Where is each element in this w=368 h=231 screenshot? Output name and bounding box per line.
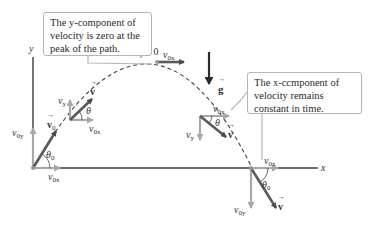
vy-label-falling: vy [186,130,194,142]
v0x-label-falling: v0x [213,104,224,116]
v-label-falling: v [228,130,233,140]
callout-2-line-1: The x-ccmponent of [254,76,355,89]
v-label-landing: v [278,202,283,212]
v-label-rising: v [90,87,95,97]
theta-label-falling: θ [215,118,220,128]
v0y-label-landing: v0y [234,205,245,217]
callout-1-line-3: peak of the path. [50,42,145,55]
theta-label-rising: θ [86,106,91,116]
v-arrow-falling [200,116,226,137]
callout-y-component: The y-component of velocity is zero at t… [43,12,152,56]
v0x-label-landing: v0x [264,156,275,168]
v0x-label-rising: v0x [89,124,100,136]
x-axis-label: x [321,163,325,173]
callout-2-line-2: velocity remains [254,89,355,102]
v0x-label-peak: v0x [163,50,174,62]
v0y-label: v0y [12,128,23,140]
v0x-label-launch: v0x [48,172,59,184]
peak-point [155,60,159,64]
launch-point [31,166,35,170]
vy-label-rising: vy [58,96,66,108]
theta0-label-launch: θ0 [46,150,54,162]
callout-1-line-1: The y-component of [50,16,145,29]
gravity-label: g [218,83,224,95]
theta0-label-landing: θ0 [262,180,270,192]
landing-point [249,166,253,170]
callout-2-line-3: constant in time. [254,102,355,115]
callout-x-component: The x-ccmponent of velocity remains cons… [247,72,362,114]
v0-label: v0 [47,120,56,132]
callout-2-leader-left [231,92,247,110]
y-axis-label: y [29,44,33,54]
callout-1-line-2: velocity is zero at the [50,29,145,42]
projectile-diagram: y x g v0 v0y v0x θ0 v vy v0x θ vy = 0 v0… [0,0,368,231]
